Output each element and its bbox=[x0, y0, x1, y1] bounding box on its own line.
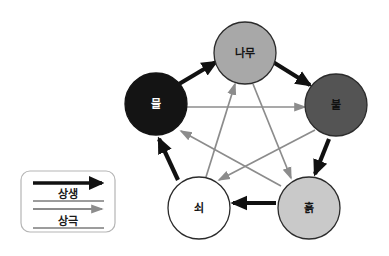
element-nodes: 나무불흙쇠물 bbox=[125, 22, 367, 239]
generating-arrow-fire-to-earth bbox=[315, 139, 329, 174]
element-node-water[interactable]: 물 bbox=[125, 73, 187, 135]
generating-arrow-metal-to-water bbox=[159, 139, 178, 180]
element-node-wood[interactable]: 나무 bbox=[214, 22, 276, 84]
element-label-metal: 쇠 bbox=[194, 201, 204, 215]
element-label-wood: 나무 bbox=[235, 46, 255, 60]
element-label-fire: 불 bbox=[331, 99, 341, 112]
element-node-earth[interactable]: 흙 bbox=[278, 177, 340, 239]
overcoming-arrow-metal-to-wood bbox=[206, 84, 235, 177]
generating-arrow-wood-to-fire bbox=[273, 62, 310, 85]
five-elements-diagram: 나무불흙쇠물 상생상극 bbox=[0, 0, 389, 256]
legend-label-generating: 상생 bbox=[58, 187, 78, 201]
element-label-earth: 흙 bbox=[304, 201, 314, 215]
overcoming-arrow-wood-to-earth bbox=[253, 84, 291, 178]
legend-label-overcoming: 상극 bbox=[58, 214, 78, 228]
element-node-fire[interactable]: 불 bbox=[305, 74, 367, 136]
element-node-metal[interactable]: 쇠 bbox=[168, 177, 230, 239]
overcoming-arrow-fire-to-metal bbox=[219, 130, 315, 180]
element-label-water: 물 bbox=[151, 98, 161, 111]
diagram-canvas: 나무불흙쇠물 상생상극 bbox=[0, 0, 389, 256]
generating-arrow-water-to-wood bbox=[179, 62, 216, 84]
overcoming-cycle-arrows bbox=[181, 84, 315, 186]
legend: 상생상극 bbox=[21, 171, 115, 232]
